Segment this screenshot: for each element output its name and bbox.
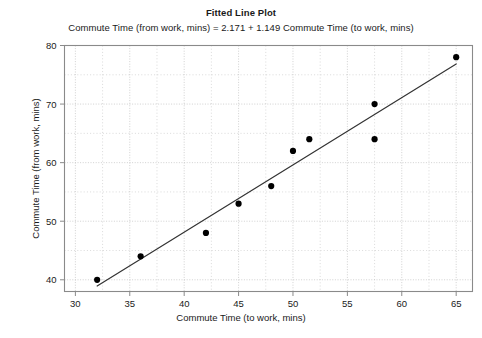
svg-text:60: 60 [46,157,57,168]
svg-text:40: 40 [46,274,57,285]
svg-text:35: 35 [124,298,135,309]
data-point [268,183,274,189]
data-point [235,201,241,207]
svg-text:80: 80 [46,40,57,51]
data-point [203,230,209,236]
x-axis-ticks [75,292,456,297]
data-point [453,54,459,60]
data-point [371,101,377,107]
svg-text:55: 55 [342,298,353,309]
svg-text:65: 65 [451,298,462,309]
fitted-line-plot: Fitted Line Plot Commute Time (from work… [0,0,482,338]
svg-text:70: 70 [46,99,57,110]
data-point [94,277,100,283]
minor-gridlines [75,46,456,292]
x-axis-label: Commute Time (to work, mins) [0,312,482,323]
svg-text:40: 40 [179,298,190,309]
data-point [306,136,312,142]
regression-line [97,64,456,286]
svg-text:50: 50 [288,298,299,309]
svg-text:50: 50 [46,216,57,227]
svg-text:30: 30 [70,298,81,309]
data-point [290,148,296,154]
svg-text:45: 45 [233,298,244,309]
y-axis-ticks [60,46,65,280]
data-point [371,136,377,142]
data-point-markers [94,54,459,283]
svg-text:60: 60 [396,298,407,309]
y-axis-tick-labels: 4050607080 [46,40,57,285]
plot-frame [65,46,473,292]
y-axis-label: Commute Time (from work, mins) [30,49,41,289]
plot-area: 3035404550556065 4050607080 [0,0,482,338]
data-point [138,253,144,259]
major-gridlines [65,46,473,280]
x-axis-tick-labels: 3035404550556065 [70,298,461,309]
